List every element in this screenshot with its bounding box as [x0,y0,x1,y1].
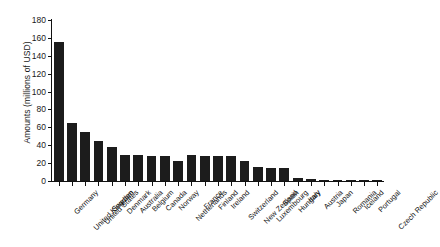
x-tick-mark [165,182,166,186]
bar-slot [344,20,357,181]
bar [120,155,130,181]
y-tick-label: 140 [32,51,46,61]
bar-slot [331,20,344,181]
bar-slot [304,20,317,181]
bar [333,180,343,181]
bar-slot [118,20,131,181]
bar-slot [357,20,370,181]
y-tick-label: 40 [37,140,46,150]
bar-slot [251,20,264,181]
x-tick-label: Germany [72,188,100,216]
bar [253,167,263,181]
bar [54,42,64,181]
x-tick-mark [85,182,86,186]
bar-slot [318,20,331,181]
x-tick-mark [152,182,153,186]
x-tick-mark [364,182,365,186]
x-tick-mark [59,182,60,186]
bar-slot [92,20,105,181]
bar-slot [132,20,145,181]
x-tick-mark [98,182,99,186]
bar-slot [145,20,158,181]
bar-slot [278,20,291,181]
bar [80,132,90,181]
bar [240,161,250,181]
bar [133,155,143,181]
bar-slot [172,20,185,181]
y-tick-label: 100 [32,87,46,97]
x-tick-mark [377,182,378,186]
y-tick-label: 20 [37,158,46,168]
bar [359,180,369,181]
bar-slot [105,20,118,181]
bar-slot [79,20,92,181]
bar [372,180,382,181]
bar [226,156,236,181]
plot-area: 020406080100120140160180 [52,20,384,181]
bar [306,179,316,181]
x-tick-mark [231,182,232,186]
y-tick-label: 60 [37,122,46,132]
y-tick-label: 0 [41,176,46,186]
x-tick-mark [284,182,285,186]
bar [346,180,356,181]
bar-slot [371,20,384,181]
y-tick-label: 120 [32,69,46,79]
x-tick-mark [271,182,272,186]
y-tick-mark [48,181,52,182]
x-tick-mark [245,182,246,186]
x-tick-mark [72,182,73,186]
bar-slot [158,20,171,181]
bar [94,141,104,181]
x-tick-mark [338,182,339,186]
bar-slot [52,20,65,181]
bar [319,180,329,181]
bar [147,156,157,181]
x-tick-mark [191,182,192,186]
x-tick-label: Czech Republic [397,188,440,231]
bar [266,168,276,181]
bar-slot [185,20,198,181]
y-tick-label: 160 [32,33,46,43]
x-tick-mark [311,182,312,186]
bar [160,156,170,181]
y-tick-label: 180 [32,15,46,25]
x-tick-mark [112,182,113,186]
bar-slot [198,20,211,181]
bar-slot [65,20,78,181]
bar-slot [238,20,251,181]
x-tick-mark [138,182,139,186]
bar [213,156,223,181]
bar [279,168,289,181]
bar-slot [291,20,304,181]
bar-slot [264,20,277,181]
bar-slot [211,20,224,181]
bar-slot [225,20,238,181]
x-tick-mark [125,182,126,186]
bar [107,147,117,181]
y-tick-label: 80 [37,104,46,114]
bar [293,178,303,181]
bar [200,156,210,181]
x-tick-mark [258,182,259,186]
bar [67,123,77,181]
x-tick-mark [324,182,325,186]
x-tick-mark [178,182,179,186]
x-tick-mark [351,182,352,186]
x-tick-mark [205,182,206,186]
bar [173,161,183,181]
bar [187,155,197,181]
x-tick-mark [218,182,219,186]
x-tick-mark [298,182,299,186]
